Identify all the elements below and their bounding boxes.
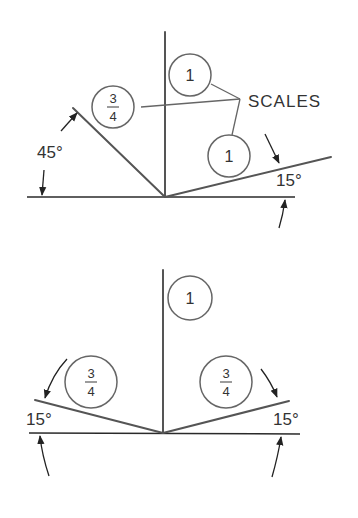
- angle-label-45: 45°: [37, 143, 63, 162]
- arrow-icon: [42, 170, 44, 195]
- angle-label-left-15: 15°: [26, 410, 52, 429]
- arrow-icon: [45, 359, 67, 398]
- arrow-icon: [272, 437, 281, 477]
- arrow-icon: [61, 113, 77, 131]
- arrow-icon: [279, 200, 285, 228]
- leader-line-top: [211, 84, 240, 99]
- axonometric-scales-diagram: 3 4 1 1 SCALES 45° 15° 1: [0, 0, 358, 518]
- leader-line-left: [141, 99, 240, 107]
- leader-line-right: [232, 99, 240, 135]
- arrow-icon: [261, 369, 277, 397]
- bottom-diagram: 1 3 4 3 4 15° 15°: [26, 270, 300, 477]
- fraction-denominator: 4: [87, 384, 94, 399]
- fraction-denominator: 4: [222, 384, 229, 399]
- angle-label-15: 15°: [276, 171, 302, 190]
- scale-circle-vertical: 1: [169, 54, 211, 96]
- arrow-icon: [265, 134, 279, 163]
- fraction-denominator: 4: [109, 109, 116, 124]
- fraction-numerator: 3: [87, 366, 94, 381]
- scale-value: 1: [186, 67, 195, 84]
- fraction-numerator: 3: [109, 91, 116, 106]
- scales-label: SCALES: [248, 92, 321, 111]
- scale-value: 1: [225, 148, 234, 165]
- scale-circle-right: 1: [208, 135, 250, 177]
- scale-circle-left: 3 4: [65, 356, 117, 408]
- scale-value: 1: [186, 290, 195, 307]
- top-diagram: 3 4 1 1 SCALES 45° 15°: [27, 32, 331, 228]
- scale-circle-left: 3 4: [92, 86, 134, 128]
- fraction-numerator: 3: [222, 366, 229, 381]
- angle-label-right-15: 15°: [273, 410, 299, 429]
- scale-circle-vertical: 1: [168, 276, 212, 320]
- scale-circle-right: 3 4: [200, 356, 252, 408]
- arrow-icon: [40, 436, 49, 476]
